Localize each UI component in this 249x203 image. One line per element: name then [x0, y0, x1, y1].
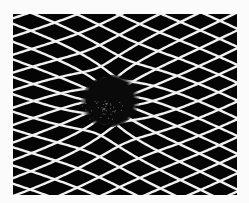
image-frame: [13, 14, 237, 195]
warped-mesh-grid: [13, 14, 237, 195]
